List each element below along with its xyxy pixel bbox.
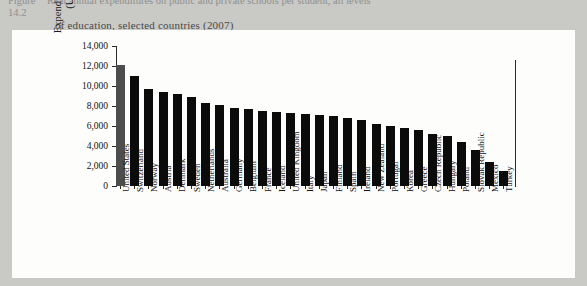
figure-panel: Expenditure per student (US dollars) 14,…	[12, 30, 575, 278]
x-tick-label: Switzerland	[135, 149, 145, 192]
x-tick-label: United Kingdom	[291, 131, 301, 192]
x-tick-label: Slovak Republic	[476, 132, 486, 192]
x-tick-label: Sweden	[192, 164, 202, 193]
x-tick-label: Italy	[305, 176, 315, 193]
bar-series: United StatesSwitzerlandNorwayAustriaDen…	[116, 30, 532, 278]
x-tick-label: Poland	[461, 167, 471, 192]
bar-chart: Expenditure per student (US dollars) 14,…	[12, 30, 575, 278]
x-tick-label: Portugal	[390, 162, 400, 193]
x-tick-label: Denmark	[177, 159, 187, 193]
figure-number: Figure 14.2	[0, 0, 47, 19]
x-tick-label: Iceland	[277, 166, 287, 192]
y-axis-ticks: 14,00012,00010,0008,0006,0004,0002,0000	[64, 30, 112, 278]
x-tick-label: Turkey	[504, 166, 514, 192]
y-tick-label: 14,000	[82, 41, 108, 51]
x-tick-label: Austria	[163, 166, 173, 193]
x-tick-label: Belgium	[248, 161, 258, 192]
y-tick-label: 2,000	[87, 161, 108, 171]
x-tick-label: Finland	[334, 164, 344, 192]
x-tick-label: Mexico	[490, 165, 500, 193]
x-tick-label: Japan	[319, 172, 329, 193]
x-tick-label: Greece	[419, 167, 429, 192]
y-axis-title-line1: Expenditure per student	[52, 0, 64, 48]
x-tick-label: Czech Republic	[433, 135, 443, 192]
figure-caption-line1: Real annual expenditures on public and p…	[47, 0, 587, 7]
y-tick-label: 12,000	[82, 61, 108, 71]
x-tick-label: Australia	[220, 159, 230, 192]
x-tick-label: Ireland	[362, 167, 372, 192]
x-tick-label: Germany	[234, 159, 244, 193]
y-tick-label: 10,000	[82, 81, 108, 91]
y-tick-label: 4,000	[87, 141, 108, 151]
y-tick-label: 0	[103, 181, 108, 191]
x-tick-label: Norway	[149, 163, 159, 192]
figure-caption: Figure 14.2 Real annual expenditures on …	[0, 0, 587, 31]
x-tick-label: Spain	[348, 171, 358, 192]
y-tick-label: 6,000	[87, 121, 108, 131]
x-tick-label: New Zealand	[376, 144, 386, 192]
x-tick-label: Netherlands	[206, 149, 216, 192]
y-tick-label: 8,000	[87, 101, 108, 111]
x-tick-label: Hungary	[447, 161, 457, 193]
x-tick-label: Korea	[405, 170, 415, 192]
x-tick-label: United States	[121, 144, 131, 192]
x-tick-label: France	[263, 168, 273, 193]
